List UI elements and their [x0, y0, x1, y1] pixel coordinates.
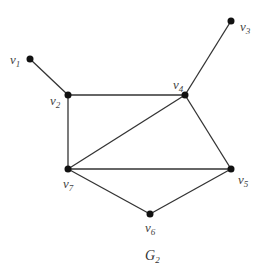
label-v1: v1 [10, 53, 20, 69]
node-v3 [228, 18, 235, 25]
node-v7 [65, 166, 72, 173]
label-v4: v4 [173, 78, 183, 94]
graph-diagram: v1 v2 v3 v4 v5 v6 v7 G2 [0, 0, 263, 273]
graph-caption: G2 [145, 248, 160, 265]
edge-v4-v5 [185, 95, 231, 169]
label-v2: v2 [50, 94, 60, 110]
graph-canvas [0, 0, 263, 273]
edge-v7-v6 [68, 169, 150, 214]
edge-v3-v4 [185, 21, 231, 95]
label-v5: v5 [238, 173, 248, 189]
node-v2 [65, 92, 72, 99]
edge-v6-v5 [150, 169, 231, 214]
label-v6: v6 [145, 221, 155, 237]
node-v1 [27, 56, 34, 63]
edge-v4-v7 [68, 95, 185, 169]
node-v5 [228, 166, 235, 173]
edge-v1-v2 [30, 59, 68, 95]
node-v6 [147, 211, 154, 218]
label-v7: v7 [63, 177, 73, 193]
label-v3: v3 [240, 20, 250, 36]
